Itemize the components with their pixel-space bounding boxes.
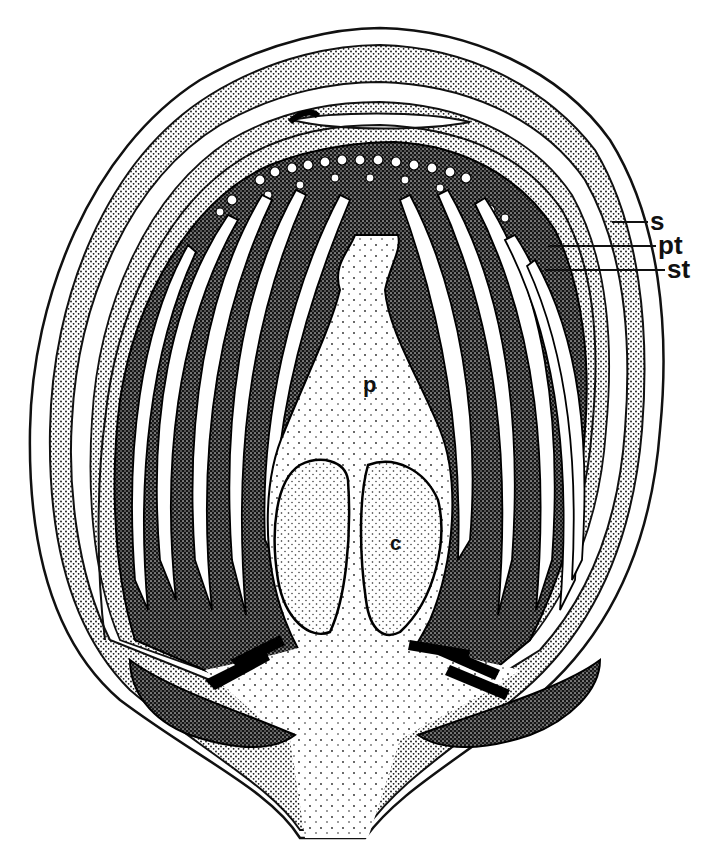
flower-bud-illustration [0, 0, 721, 865]
label-st: st [667, 256, 690, 282]
ovary-left [275, 460, 349, 634]
label-p: p [363, 374, 376, 396]
label-c: c [390, 533, 401, 553]
